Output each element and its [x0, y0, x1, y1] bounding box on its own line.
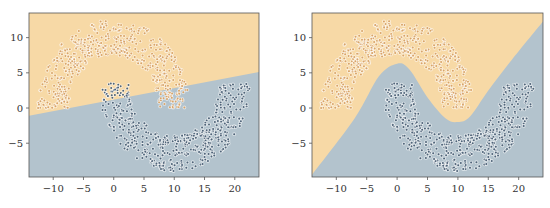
data-point	[402, 45, 404, 47]
data-point	[224, 122, 226, 124]
data-point	[43, 100, 45, 102]
data-point	[373, 41, 375, 43]
data-point	[410, 87, 412, 89]
data-point	[413, 38, 415, 40]
data-point	[100, 42, 102, 44]
data-point	[447, 136, 449, 138]
data-point	[204, 135, 206, 137]
data-point	[61, 53, 63, 55]
data-point	[175, 100, 177, 102]
data-point	[442, 165, 444, 167]
data-point	[193, 135, 195, 137]
data-point	[406, 35, 408, 37]
data-point	[454, 97, 456, 99]
data-point	[411, 142, 413, 144]
data-point	[513, 106, 515, 108]
data-point	[511, 126, 513, 128]
data-point	[130, 38, 132, 40]
data-point	[142, 66, 144, 68]
data-point	[374, 55, 376, 57]
data-point	[384, 36, 386, 38]
data-point	[162, 84, 164, 86]
data-point	[415, 59, 417, 61]
data-point	[389, 115, 391, 117]
data-point	[504, 151, 506, 153]
data-point	[452, 153, 454, 155]
data-point	[153, 44, 155, 46]
data-point	[143, 122, 145, 124]
data-point	[446, 165, 448, 167]
data-point	[78, 30, 80, 32]
data-point	[134, 113, 136, 115]
data-point	[188, 142, 190, 144]
data-point	[465, 134, 467, 136]
data-point	[388, 39, 390, 41]
data-point	[449, 50, 451, 52]
data-point	[46, 70, 48, 72]
data-point	[354, 60, 356, 62]
data-point	[181, 134, 183, 136]
data-point	[135, 125, 137, 127]
data-point	[178, 104, 180, 106]
data-point	[446, 97, 448, 99]
data-point	[71, 76, 73, 78]
data-point	[243, 92, 245, 94]
data-point	[357, 41, 359, 43]
data-point	[228, 92, 230, 94]
data-point	[155, 49, 157, 51]
data-point	[414, 113, 416, 115]
data-point	[101, 36, 103, 38]
data-point	[527, 92, 529, 94]
data-point	[522, 93, 524, 95]
data-point	[524, 120, 526, 122]
data-point	[492, 129, 494, 131]
data-point	[344, 77, 346, 79]
data-point	[118, 24, 120, 26]
data-point	[491, 153, 493, 155]
data-point	[394, 87, 396, 89]
data-point	[84, 60, 86, 62]
data-point	[443, 139, 445, 141]
data-point	[458, 56, 460, 58]
data-point	[417, 38, 419, 40]
data-point	[171, 163, 173, 165]
data-point	[68, 97, 70, 99]
data-point	[468, 83, 470, 85]
data-point	[525, 94, 527, 96]
data-point	[179, 168, 181, 170]
data-point	[391, 38, 393, 40]
data-point	[400, 116, 402, 118]
data-point	[60, 57, 62, 59]
data-point	[71, 36, 73, 38]
data-point	[138, 122, 140, 124]
data-point	[440, 61, 442, 63]
data-point	[336, 96, 338, 98]
data-point	[183, 140, 185, 142]
data-point	[455, 52, 457, 54]
data-point	[73, 53, 75, 55]
data-point	[350, 107, 352, 109]
data-point	[141, 141, 143, 143]
data-point	[134, 38, 136, 40]
data-point	[524, 87, 526, 89]
data-point	[490, 129, 492, 131]
data-point	[429, 131, 431, 133]
data-point	[443, 105, 445, 107]
data-point	[40, 89, 42, 91]
data-point	[119, 126, 121, 128]
data-point	[436, 55, 438, 57]
data-point	[186, 134, 188, 136]
data-point	[465, 85, 467, 87]
data-point	[441, 155, 443, 157]
data-point	[443, 158, 445, 160]
data-point	[110, 83, 112, 85]
data-point	[409, 95, 411, 97]
data-point	[386, 99, 388, 101]
data-point	[189, 139, 191, 141]
data-point	[406, 129, 408, 131]
data-point	[119, 55, 121, 57]
data-point	[91, 55, 93, 57]
data-point	[63, 101, 65, 103]
data-point	[433, 158, 435, 160]
data-point	[375, 44, 377, 46]
